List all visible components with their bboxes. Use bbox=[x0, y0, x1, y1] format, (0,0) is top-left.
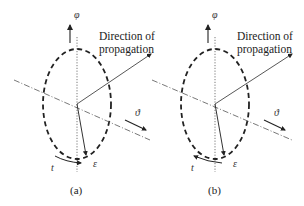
time-label: t bbox=[191, 163, 194, 173]
time-label: t bbox=[51, 163, 54, 173]
theta-arrow-icon bbox=[264, 120, 285, 130]
propagation-label-line1: Direction of bbox=[99, 30, 155, 43]
phi-label: φ bbox=[74, 10, 80, 20]
theta-arrow-icon bbox=[125, 120, 146, 130]
theta-label: ϑ bbox=[135, 108, 140, 118]
phi-label: φ bbox=[212, 10, 218, 20]
e-field-vector-icon bbox=[215, 104, 224, 155]
panel-b-caption: (b) bbox=[208, 185, 221, 196]
e-field-vector-icon bbox=[77, 104, 86, 155]
propagation-label: Direction of propagation bbox=[237, 30, 293, 56]
panel-a-caption: (a) bbox=[70, 185, 82, 196]
propagation-label: Direction of propagation bbox=[99, 30, 155, 56]
propagation-arrow-icon bbox=[77, 54, 151, 104]
e-field-label: ε bbox=[93, 159, 97, 169]
propagation-label-line1: Direction of bbox=[237, 30, 293, 43]
propagation-label-line2: propagation bbox=[99, 43, 155, 56]
theta-axis bbox=[152, 80, 292, 140]
theta-label: ϑ bbox=[274, 108, 279, 118]
e-field-label: ε bbox=[233, 159, 237, 169]
propagation-arrow-icon bbox=[215, 54, 292, 104]
propagation-label-line2: propagation bbox=[237, 43, 293, 56]
polarization-figure: φ Direction of propagation ϑ ε t (a) φ D… bbox=[0, 0, 304, 206]
